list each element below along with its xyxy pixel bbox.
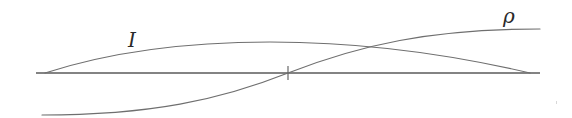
density-label: ρ: [503, 6, 515, 26]
diagram-canvas: [0, 0, 572, 118]
scan-artifact: [556, 101, 557, 104]
intensity-label: I: [128, 30, 136, 50]
intensity-density-diagram: I ρ: [0, 0, 572, 118]
